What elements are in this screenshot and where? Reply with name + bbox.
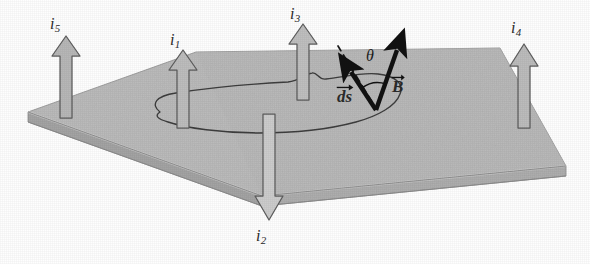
current-subscript-i1: 1 [175,38,180,50]
current-symbol-i2: i [256,227,260,244]
current-symbol-i3: i [290,5,294,22]
b-vector-label: B [392,78,403,95]
current-label-i3: i3 [290,6,300,24]
b-symbol-text: B [392,77,403,96]
current-label-i1: i1 [170,32,180,50]
current-label-i5: i5 [50,16,60,34]
theta-symbol: θ [366,47,374,64]
b-vector-glyph: B [392,78,403,95]
current-label-i4: i4 [511,20,521,38]
current-symbol-i4: i [511,19,515,36]
current-label-i2: i2 [256,228,266,246]
theta-label: θ [366,48,374,64]
figure-canvas: i5 i1 i3 i4 i2 θ ds [0,0,590,264]
current-subscript-i5: 5 [55,22,60,34]
ds-vector-glyph: ds [337,88,352,105]
current-symbol-i5: i [50,15,54,32]
current-subscript-i3: 3 [295,12,300,24]
ds-vector-label: ds [337,88,352,105]
current-subscript-i2: 2 [261,234,266,246]
current-symbol-i1: i [170,31,174,48]
current-subscript-i4: 4 [516,26,521,38]
diagram-svg [0,0,590,264]
ds-symbol-text: ds [337,87,352,106]
